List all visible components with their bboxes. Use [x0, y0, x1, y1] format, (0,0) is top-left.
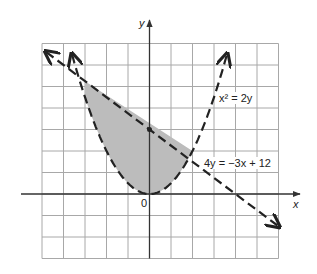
line-curve — [46, 52, 278, 226]
origin-label: 0 — [140, 197, 148, 209]
x-axis-label: x — [292, 198, 300, 210]
parabola-label: x² = 2y — [218, 92, 253, 104]
y-intercept-point — [147, 127, 152, 132]
y-axis-label: y — [138, 17, 146, 29]
graph-canvas — [0, 0, 317, 274]
inequality-graph: x² = 2y 4y = −3x + 12 x y 0 — [0, 0, 317, 274]
line-label: 4y = −3x + 12 — [203, 157, 272, 169]
